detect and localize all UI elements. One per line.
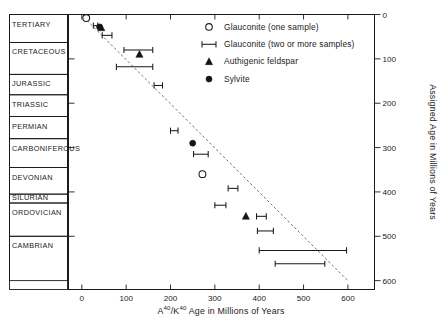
x-tick-label-200: 200 — [164, 294, 178, 303]
point-open-circle-1 — [199, 171, 206, 178]
y-right-tick-label-400: 400 — [383, 188, 397, 197]
figure-container: TERTIARYCRETACEOUSJURASSICTRIASSICPERMIA… — [0, 0, 445, 321]
filled-circle-icon — [206, 76, 212, 82]
series-error-bar — [93, 22, 346, 266]
open-circle-icon — [206, 24, 213, 31]
period-label-permian: PERMIAN — [12, 122, 48, 131]
correlation-trend-line — [87, 21, 348, 281]
legend-item-2: Authigenic feldspar — [205, 56, 298, 66]
x-tick-label-600: 600 — [341, 294, 355, 303]
y-right-title-text: Assigned Age in Millions of Years — [428, 84, 438, 220]
y-right-tick-label-500: 500 — [383, 232, 397, 241]
y-right-tick-label-100: 100 — [383, 55, 397, 64]
x-title-main-text: Age in Millions of Years — [189, 306, 285, 316]
y-axis-right-tick-labels: 0100200300400500600 — [383, 11, 397, 286]
triangle-icon — [205, 58, 212, 65]
point-filled-circle-1 — [190, 140, 196, 146]
series-filled-circle — [97, 24, 196, 146]
x-tick-label-400: 400 — [252, 294, 266, 303]
series-open-circle — [83, 15, 206, 178]
y-axis-right-ticks — [375, 15, 381, 281]
x-tick-label-500: 500 — [297, 294, 311, 303]
x-tick-label-100: 100 — [119, 294, 133, 303]
point-triangle-2 — [242, 212, 249, 219]
y-axis-right-title: Assigned Age in Millions of Years — [428, 84, 438, 220]
y-right-tick-label-600: 600 — [383, 277, 397, 286]
point-open-circle-0 — [83, 15, 90, 22]
period-label-jurassic: JURASSIC — [12, 79, 51, 88]
period-label-devonian: DEVONIAN — [12, 173, 53, 182]
legend-label-3: Sylvite — [224, 74, 250, 84]
y-axis-left-ticks — [69, 59, 75, 236]
period-label-carboniferous: CARBONIFEROUS — [12, 144, 80, 153]
legend-label-1: Glauconite (two or more samples) — [224, 39, 355, 49]
x-axis-title: A40/K40 Age in Millions of Years — [157, 304, 284, 316]
svg-text:A40/K40 Age in Millions of Yea: A40/K40 Age in Millions of Years — [157, 304, 284, 316]
y-right-tick-label-200: 200 — [383, 99, 397, 108]
legend-label-0: Glauconite (one sample) — [224, 22, 319, 32]
x-tick-label-300: 300 — [208, 294, 222, 303]
legend-item-0: Glauconite (one sample) — [206, 22, 319, 32]
period-label-cambrian: CAMBRIAN — [12, 241, 53, 250]
data-points-group — [83, 15, 347, 267]
y-right-tick-label-300: 300 — [383, 144, 397, 153]
chart-legend: Glauconite (one sample)Glauconite (two o… — [202, 22, 355, 84]
period-label-cretaceous: CRETACEOUS — [12, 47, 66, 56]
y-right-tick-label-0: 0 — [383, 11, 388, 20]
point-triangle-1 — [136, 51, 143, 58]
x-title-slash: /K — [171, 306, 180, 316]
point-filled-circle-0 — [97, 24, 103, 30]
x-tick-label-0: 0 — [80, 294, 85, 303]
legend-item-3: Sylvite — [206, 74, 250, 84]
period-label-ordovician: ORDOVICIAN — [12, 208, 62, 217]
plot-border — [69, 15, 375, 290]
geologic-period-column: TERTIARYCRETACEOUSJURASSICTRIASSICPERMIA… — [10, 15, 81, 290]
period-label-tertiary: TERTIARY — [12, 20, 51, 29]
x-axis-tick-labels: 0100200300400500600 — [80, 294, 356, 303]
plot-frame — [69, 15, 375, 290]
period-label-triassic: TRIASSIC — [12, 100, 48, 109]
legend-label-2: Authigenic feldspar — [224, 56, 298, 66]
legend-item-1: Glauconite (two or more samples) — [202, 39, 355, 49]
age-correlation-chart: TERTIARYCRETACEOUSJURASSICTRIASSICPERMIA… — [0, 0, 445, 321]
period-label-silurian: SILURIAN — [12, 193, 48, 202]
trend-line-group — [87, 21, 348, 281]
series-triangle — [98, 24, 250, 219]
